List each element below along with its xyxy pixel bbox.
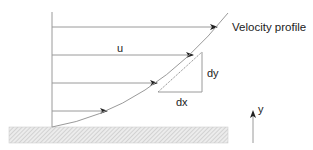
velocity-arrow <box>52 24 218 30</box>
velocity-profile-label: Velocity profile <box>232 21 306 33</box>
velocity-arrow <box>52 80 158 86</box>
dy-label: dy <box>207 67 219 79</box>
dx-label: dx <box>176 96 188 108</box>
y-axis-label: y <box>258 103 264 115</box>
tangent-line <box>158 52 202 92</box>
wall-surface <box>9 127 228 143</box>
velocity-profile-diagram: Velocity profile u dy dx y <box>0 0 313 150</box>
u-label: u <box>117 42 123 54</box>
